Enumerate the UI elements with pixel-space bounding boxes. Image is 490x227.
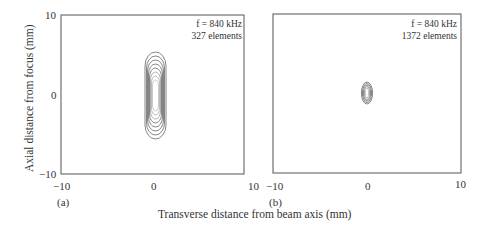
panel-b-elements: 1372 elements <box>402 30 457 42</box>
panel-a-contours <box>145 52 166 139</box>
panel-a-xtick-mid: 0 <box>151 180 157 192</box>
panel-a-xtick-left: −10 <box>53 180 70 192</box>
y-axis-label: Axial distance from focus (mm) <box>23 24 35 172</box>
x-axis-label: Transverse distance from beam axis (mm) <box>158 208 351 220</box>
panel-b-annotation: f = 840 kHz 1372 elements <box>402 18 457 42</box>
panel-b-frequency: f = 840 kHz <box>402 18 457 30</box>
panel-a-ytick-mid: 0 <box>51 89 57 101</box>
panel-a-xtick-right: 10 <box>248 180 259 192</box>
panel-b-xtick-left: −10 <box>266 180 283 192</box>
panel-a-ytick-top: 10 <box>45 9 56 21</box>
panel-a-annotation: f = 840 kHz 327 elements <box>192 18 242 42</box>
panel-a-frequency: f = 840 kHz <box>192 18 242 30</box>
panel-a-label: (a) <box>57 196 69 208</box>
panel-b-xtick-right: 10 <box>455 178 466 190</box>
panel-a-ytick-bottom: −10 <box>39 168 56 180</box>
panel-b-label: (b) <box>269 196 282 208</box>
contour-figure: Axial distance from focus (mm) 10 0 −10 … <box>0 0 490 227</box>
panel-b-contours <box>361 82 372 104</box>
panel-b-xtick-mid: 0 <box>365 180 371 192</box>
panel-a-elements: 327 elements <box>192 30 242 42</box>
